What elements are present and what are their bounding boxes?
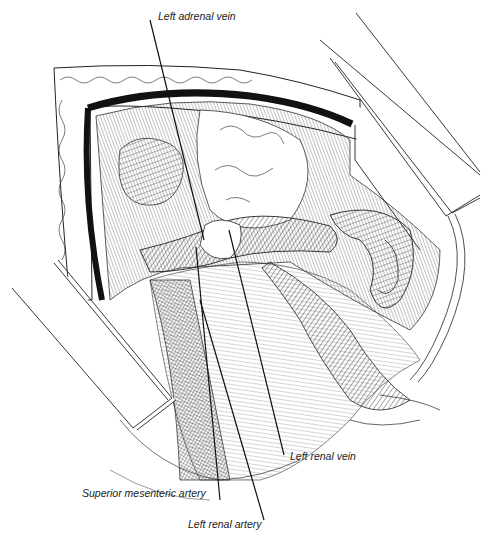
label-left-adrenal-vein: Left adrenal vein [158,10,236,22]
anatomical-illustration: Left adrenal vein Left renal vein Superi… [0,0,491,546]
label-left-renal-artery: Left renal artery [188,518,262,530]
label-superior-mesenteric-artery: Superior mesenteric artery [82,487,206,499]
illustration-drawing [0,0,491,546]
label-left-renal-vein: Left renal vein [290,450,356,462]
